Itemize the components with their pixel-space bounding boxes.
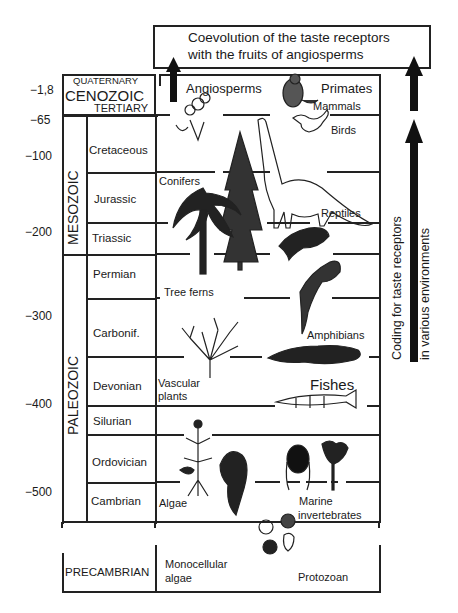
organism-illustrations <box>0 0 458 613</box>
amphibian-upright-icon <box>300 261 340 334</box>
amphibian-crawling-icon <box>268 346 360 364</box>
sauropod-dinosaur-icon <box>258 118 372 228</box>
angiosperm-flower-icon <box>176 93 210 140</box>
crinoid-icon <box>322 441 348 490</box>
fish-icon <box>276 390 356 408</box>
algae-icon <box>180 420 247 515</box>
bird-icon <box>293 110 328 132</box>
primate-icon <box>283 74 318 107</box>
reptile-lizard-icon <box>279 228 329 260</box>
protozoa-icon <box>259 514 295 554</box>
trilobite-icon <box>286 445 309 490</box>
vascular-plant-icon <box>182 318 238 378</box>
